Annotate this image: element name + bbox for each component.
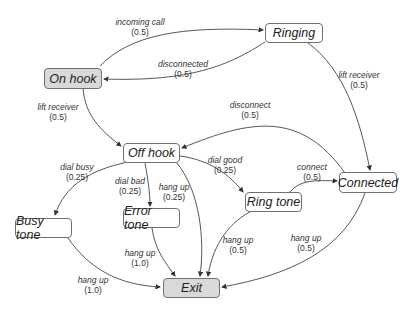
label-hang-up-busy: hang up(1.0) [78,275,109,295]
node-ringing: Ringing [265,23,323,43]
node-error-tone: Error tone [123,208,180,228]
node-off-hook: Off hook [123,143,180,163]
node-ring-tone: Ring tone [245,192,302,212]
label-lift-receiver-ringing: lift receiver(0.5) [338,70,379,90]
label-lift-receiver-onhook: lift receiver(0.5) [37,102,78,122]
label-dial-bad: dial bad(0.25) [115,176,145,196]
node-busy-tone: Busy tone [15,218,72,238]
label-hang-up-error: hang up(1.0) [125,248,156,268]
label-hang-up-offhook: hang up(0.25) [159,182,190,202]
node-on-hook: On hook [44,68,102,89]
node-connected: Connected [339,172,397,193]
label-dial-busy: dial busy(0.25) [60,162,94,182]
label-incoming-call: incoming call(0.5) [115,17,164,37]
node-exit: Exit [163,278,220,298]
label-dial-good: dial good(0.25) [208,155,243,175]
label-hang-up-ringtone: hang up(0.5) [223,235,254,255]
edge-lift-receiver-onhook [83,88,121,146]
edge-dial-bad [145,163,150,206]
edges-layer [0,0,410,312]
label-disconnect: disconnect(0.5) [230,100,271,120]
label-disconnected: disconnected(0.5) [158,59,208,79]
label-hang-up-connected: hang up(0.5) [291,233,322,253]
edge-lift-receiver-ringing [308,43,370,170]
label-connect: connect(0.5) [297,162,327,182]
edge-connect [290,181,337,192]
